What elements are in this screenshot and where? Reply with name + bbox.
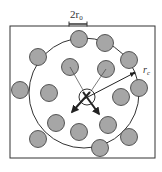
diameter-indicator: 2r0 xyxy=(69,8,87,27)
particle xyxy=(30,131,47,148)
particle xyxy=(48,115,65,132)
particle xyxy=(41,85,58,102)
particle xyxy=(100,117,117,134)
particle xyxy=(92,140,109,157)
particle xyxy=(71,31,88,48)
particle xyxy=(131,80,148,97)
particle xyxy=(121,129,138,146)
diameter-label: 2r0 xyxy=(70,8,83,22)
particle xyxy=(12,82,29,99)
particle xyxy=(121,52,138,69)
cutoff-radius-label: rc xyxy=(143,64,151,77)
cutoff-radius-diagram: 2r0 rc xyxy=(0,0,162,172)
particle xyxy=(113,89,130,106)
particle xyxy=(30,49,47,66)
particle xyxy=(71,124,88,141)
particle xyxy=(97,35,114,52)
cutoff-radius-endpoint xyxy=(133,72,136,75)
